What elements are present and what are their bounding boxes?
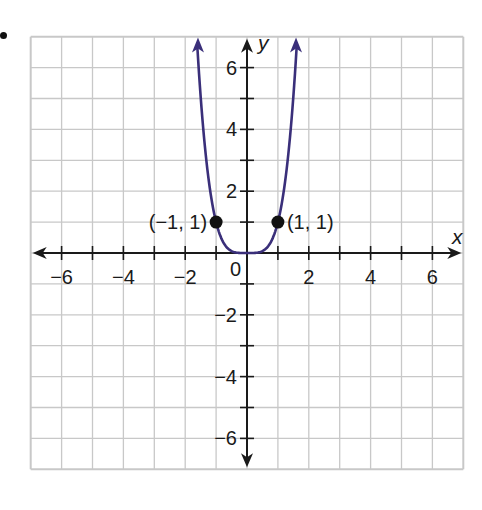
coordinate-plane: (−1, 1)(1, 1) −6−4−2246−6−4−2246 x y 0 (0, 0, 482, 510)
x-tick-label: 2 (303, 266, 314, 288)
x-tick-label: −4 (112, 266, 135, 288)
point-marker (210, 216, 223, 229)
x-tick-label: 4 (365, 266, 376, 288)
x-tick-label: −2 (174, 266, 197, 288)
x-axis-label: x (451, 225, 464, 248)
y-tick-label: 4 (226, 118, 237, 140)
y-tick-label: 6 (226, 57, 237, 79)
point-marker (271, 216, 284, 229)
origin-label: 0 (230, 258, 241, 280)
x-tick-label: 6 (427, 266, 438, 288)
x-tick-label: −6 (50, 266, 73, 288)
y-tick-label: −6 (214, 427, 237, 449)
y-tick-label: −4 (214, 366, 237, 388)
y-tick-label: −2 (214, 304, 237, 326)
y-tick-label: 2 (226, 180, 237, 202)
y-axis-label: y (256, 31, 270, 54)
point-label: (−1, 1) (149, 211, 207, 233)
point-label: (1, 1) (287, 211, 334, 233)
